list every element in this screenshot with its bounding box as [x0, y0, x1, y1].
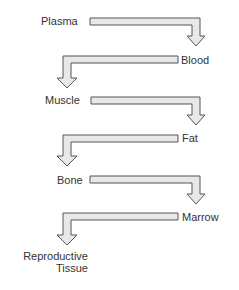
arrow-muscle-to-fat	[91, 97, 205, 125]
arrow-fat-to-bone	[57, 135, 178, 166]
node-bone: Bone	[57, 174, 83, 186]
node-fat: Fat	[182, 132, 198, 144]
flow-arrows	[0, 0, 239, 290]
node-blood: Blood	[181, 54, 209, 66]
node-reproductive-tissue: Reproductive Tissue	[6, 250, 88, 274]
node-marrow: Marrow	[182, 211, 219, 223]
node-reproductive-line1: Reproductive	[6, 250, 88, 262]
node-muscle: Muscle	[45, 94, 80, 106]
arrow-plasma-to-blood	[90, 18, 205, 46]
arrow-blood-to-muscle	[57, 56, 178, 88]
node-plasma: Plasma	[41, 15, 78, 27]
node-reproductive-line2: Tissue	[6, 262, 88, 274]
arrow-bone-to-marrow	[90, 176, 205, 204]
arrow-marrow-to-reproductive	[57, 213, 178, 245]
